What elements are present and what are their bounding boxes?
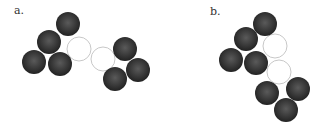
hollow-sphere: [263, 34, 287, 58]
dark-sphere: [22, 50, 46, 74]
dark-sphere: [286, 77, 310, 101]
hollow-sphere: [267, 60, 291, 84]
dark-sphere: [234, 27, 258, 51]
dark-sphere: [244, 51, 268, 75]
dark-sphere: [48, 52, 72, 76]
dark-sphere: [126, 58, 150, 82]
hollow-sphere: [91, 47, 115, 71]
dark-sphere: [274, 98, 298, 122]
dark-sphere: [253, 12, 277, 36]
dark-sphere: [219, 48, 243, 72]
dark-sphere: [103, 67, 127, 91]
hollow-sphere: [67, 37, 91, 61]
sphere-diagram: [0, 0, 329, 128]
dark-sphere: [255, 81, 279, 105]
dark-sphere: [37, 30, 61, 54]
dark-sphere: [56, 12, 80, 36]
dark-sphere: [113, 37, 137, 61]
